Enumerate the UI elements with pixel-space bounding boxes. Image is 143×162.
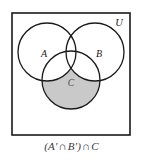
caption-intersect-icon-2: ∩: [81, 140, 91, 152]
caption-intersect-icon-1: ∩: [58, 140, 68, 152]
label-set-c: C: [68, 78, 75, 88]
label-set-a: A: [40, 48, 48, 59]
venn-diagram-figure: A B C U (A'∩B')∩C: [0, 0, 143, 162]
figure-caption: (A'∩B')∩C: [0, 140, 143, 152]
venn-diagram-svg: A B C U: [0, 0, 143, 162]
caption-a-complement: A': [48, 140, 57, 152]
label-set-b: B: [96, 48, 102, 59]
caption-b-complement: B': [68, 140, 77, 152]
caption-c-label: C: [91, 140, 99, 152]
